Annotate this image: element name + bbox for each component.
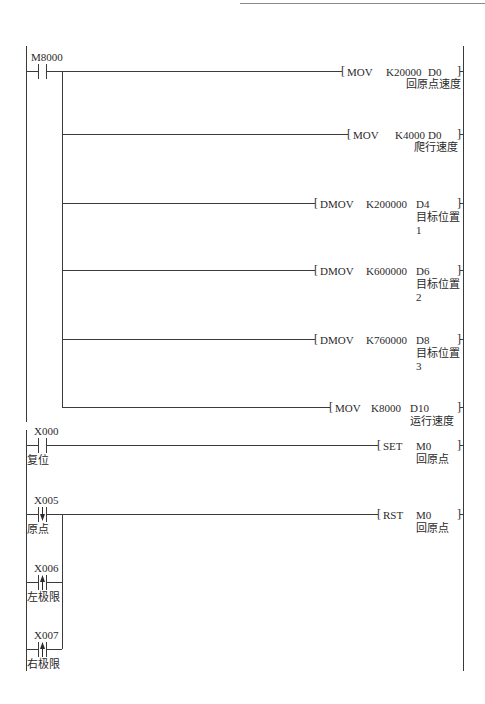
close-bracket: ]: [457, 264, 461, 276]
instruction-opcode: MOV: [347, 66, 373, 78]
contact-x000-comment: 复位: [27, 454, 49, 467]
instruction-opcode: MOV: [353, 129, 379, 141]
instruction-source: K4000: [395, 129, 425, 141]
instruction-opcode: RST: [383, 509, 403, 521]
instruction-dest: D0: [428, 66, 441, 78]
instruction-dest: D0: [428, 129, 441, 141]
instruction-opcode: MOV: [335, 402, 361, 414]
contact-x005-address: X005: [34, 494, 58, 506]
open-bracket: [: [341, 65, 345, 77]
instruction-comment: 目标位置: [416, 211, 460, 224]
open-bracket: [: [314, 333, 318, 345]
instruction-comment: 回原点: [416, 522, 449, 535]
instruction-comment: 回原点: [416, 453, 449, 466]
contact-x006-address: X006: [34, 562, 58, 574]
close-bracket: ]: [457, 401, 461, 413]
instruction-comment: 运行速度: [410, 415, 454, 428]
instruction-opcode: DMOV: [320, 334, 354, 346]
contact-x006-comment: 左极限: [27, 591, 60, 604]
contact-x000-address: X000: [34, 425, 58, 437]
instruction-comment-line2: 2: [416, 291, 422, 304]
falling-edge-contact-icon: [35, 507, 49, 522]
contact-x005-comment: 原点: [27, 523, 49, 536]
instruction-source: K600000: [366, 265, 407, 277]
close-bracket: ]: [457, 439, 461, 451]
instruction-dest: D8: [416, 334, 429, 346]
open-bracket: [: [329, 401, 333, 413]
instruction-source: K200000: [366, 198, 407, 210]
contact-no-icon: [35, 438, 49, 453]
close-bracket: ]: [457, 197, 461, 209]
instruction-dest: M0: [416, 440, 431, 452]
instruction-dest: D4: [416, 198, 429, 210]
instruction-source: K760000: [366, 334, 407, 346]
contact-m8000-address: M8000: [31, 51, 63, 63]
contact-x007-comment: 右极限: [27, 658, 60, 671]
contact-x007-address: X007: [34, 629, 58, 641]
instruction-opcode: DMOV: [320, 265, 354, 277]
instruction-comment: 爬行速度: [414, 141, 458, 154]
instruction-comment: 目标位置: [416, 347, 460, 360]
contact-no-icon: [35, 64, 49, 79]
open-bracket: [: [377, 439, 381, 451]
instruction-comment: 目标位置: [416, 278, 460, 291]
rising-edge-contact-icon: [35, 642, 49, 657]
rising-edge-contact-icon: [35, 575, 49, 590]
instruction-opcode: DMOV: [320, 198, 354, 210]
close-bracket: ]: [457, 333, 461, 345]
open-bracket: [: [377, 508, 381, 520]
instruction-dest: D10: [410, 402, 429, 414]
instruction-dest: D6: [416, 265, 429, 277]
instruction-opcode: SET: [383, 440, 403, 452]
ladder-wiring: [0, 0, 485, 704]
instruction-source: K8000: [371, 402, 401, 414]
close-bracket: ]: [457, 508, 461, 520]
open-bracket: [: [314, 197, 318, 209]
instruction-comment: 回原点速度: [406, 78, 461, 91]
open-bracket: [: [314, 264, 318, 276]
instruction-source: K20000: [386, 66, 421, 78]
instruction-dest: M0: [416, 509, 431, 521]
close-bracket: ]: [457, 65, 461, 77]
instruction-comment-line2: 3: [416, 360, 422, 373]
open-bracket: [: [347, 128, 351, 140]
close-bracket: ]: [457, 128, 461, 140]
instruction-comment-line2: 1: [416, 224, 422, 237]
